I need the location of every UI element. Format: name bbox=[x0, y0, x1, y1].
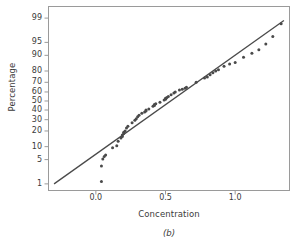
data-point bbox=[100, 165, 103, 168]
y-tick-label: 1 bbox=[18, 180, 42, 188]
data-point bbox=[145, 109, 148, 112]
data-point bbox=[203, 77, 206, 80]
y-axis-tick-labels: 151020304050607080909599 bbox=[18, 0, 42, 249]
y-tick-label: 20 bbox=[18, 127, 42, 135]
data-point bbox=[178, 89, 181, 92]
data-point bbox=[167, 95, 170, 98]
data-point bbox=[101, 157, 104, 160]
x-axis-tick-labels: 0.00.51.0 bbox=[0, 194, 301, 208]
y-tick-label: 60 bbox=[18, 88, 42, 96]
data-point bbox=[174, 90, 177, 93]
y-tick-label: 80 bbox=[18, 67, 42, 75]
y-axis-tick-marks bbox=[45, 18, 49, 184]
data-point bbox=[131, 121, 134, 124]
figure-caption-text: (b) bbox=[163, 228, 175, 238]
figure-caption: (b) bbox=[48, 228, 290, 238]
data-point bbox=[185, 86, 188, 89]
x-tick-label: 0.5 bbox=[151, 194, 181, 202]
reference-line-segment bbox=[54, 21, 284, 184]
y-tick-label: 40 bbox=[18, 106, 42, 114]
y-tick-label: 70 bbox=[18, 78, 42, 86]
data-point bbox=[217, 68, 220, 71]
data-point bbox=[115, 144, 118, 147]
data-point bbox=[214, 70, 217, 73]
data-point bbox=[257, 48, 260, 51]
probability-plot-figure: 151020304050607080909599 0.00.51.0 Perce… bbox=[0, 0, 301, 249]
y-tick-label: 99 bbox=[18, 14, 42, 22]
data-point bbox=[242, 56, 245, 59]
data-point-series bbox=[100, 22, 283, 183]
data-point bbox=[209, 73, 212, 76]
x-tick-label: 1.0 bbox=[220, 194, 250, 202]
data-point bbox=[211, 71, 214, 74]
data-point bbox=[206, 75, 209, 78]
data-point bbox=[234, 61, 237, 64]
data-point bbox=[154, 102, 157, 105]
data-point bbox=[195, 81, 198, 84]
data-point bbox=[100, 180, 103, 183]
data-point bbox=[271, 35, 274, 38]
y-tick-label: 95 bbox=[18, 38, 42, 46]
y-axis-title: Percentage bbox=[7, 47, 17, 127]
data-point bbox=[158, 101, 161, 104]
y-tick-label: 10 bbox=[18, 143, 42, 151]
x-tick-label: 0.0 bbox=[81, 194, 111, 202]
y-tick-label: 90 bbox=[18, 51, 42, 59]
y-tick-label: 50 bbox=[18, 97, 42, 105]
data-point bbox=[140, 112, 143, 115]
data-point bbox=[280, 22, 283, 25]
data-point bbox=[111, 146, 114, 149]
data-point bbox=[126, 125, 129, 128]
data-point bbox=[223, 65, 226, 68]
data-point bbox=[124, 129, 127, 132]
data-point bbox=[170, 93, 173, 96]
data-point bbox=[181, 88, 184, 91]
x-axis-title: Concentration bbox=[48, 209, 290, 219]
data-point bbox=[264, 43, 267, 46]
reference-line bbox=[54, 21, 284, 184]
data-point bbox=[250, 52, 253, 55]
y-tick-label: 30 bbox=[18, 116, 42, 124]
data-point bbox=[147, 108, 150, 111]
y-tick-label: 5 bbox=[18, 156, 42, 164]
data-point bbox=[117, 140, 120, 143]
data-point bbox=[228, 63, 231, 66]
data-point bbox=[104, 153, 107, 156]
data-point bbox=[138, 114, 141, 117]
